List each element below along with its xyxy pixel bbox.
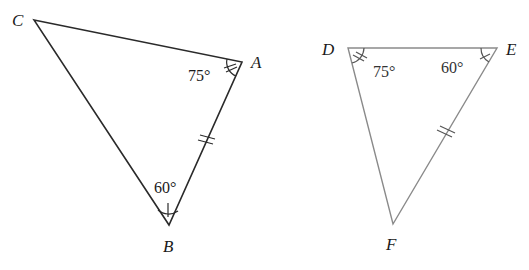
angle-tick-a-1 — [224, 64, 236, 68]
angle-label-d: 75° — [373, 63, 395, 80]
vertex-label-b: B — [163, 237, 174, 256]
triangle-abc-outline — [34, 20, 242, 225]
vertex-label-e: E — [505, 40, 517, 59]
angle-label-e: 60° — [441, 59, 463, 76]
vertex-label-a: A — [250, 53, 262, 72]
triangle-def-outline — [348, 48, 497, 224]
vertex-label-c: C — [12, 11, 24, 30]
angle-label-a: 75° — [188, 67, 210, 84]
angle-label-b: 60° — [154, 179, 176, 196]
vertex-label-d: D — [321, 40, 335, 59]
triangle-abc: C A B 75° 60° — [12, 11, 262, 256]
vertex-label-f: F — [385, 235, 397, 254]
triangle-def: D E F 75° 60° — [321, 40, 517, 254]
congruent-triangles-diagram: C A B 75° 60° D E F 75° 60° — [0, 0, 529, 270]
